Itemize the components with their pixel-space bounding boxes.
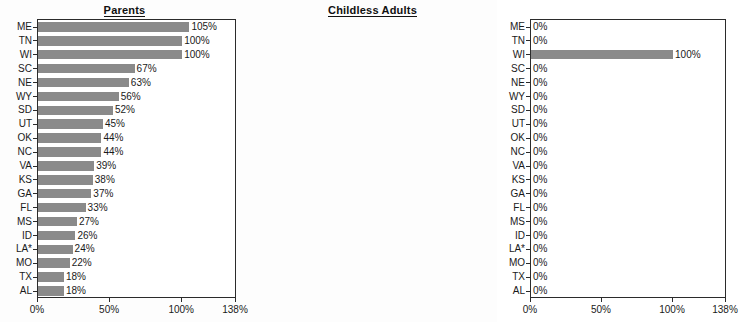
plot-frame-childless <box>530 19 726 298</box>
category-label-mo: MO <box>495 256 525 270</box>
x-tick-label: 100% <box>168 304 194 315</box>
x-tick-mark <box>235 298 236 302</box>
category-label-sd: SD <box>2 103 32 117</box>
x-tick-label: 0% <box>30 304 44 315</box>
category-label-wi: WI <box>2 48 32 62</box>
category-label-ok: OK <box>2 131 32 145</box>
category-label-sc: SC <box>2 62 32 76</box>
x-tick-label: 100% <box>659 304 685 315</box>
category-label-me: ME <box>2 20 32 34</box>
x-tick-label: 138% <box>222 304 248 315</box>
chart-title-parents: Parents <box>0 4 249 16</box>
x-tick-mark <box>37 298 38 302</box>
category-label-ut: UT <box>2 117 32 131</box>
category-label-fl: FL <box>495 201 525 215</box>
chart-panel-parents: Parents ME105%TN100%WI100%SC67%NE63%WY56… <box>0 0 249 322</box>
category-label-sc: SC <box>495 62 525 76</box>
plot-frame-parents <box>37 19 236 298</box>
x-tick-mark <box>109 298 110 302</box>
chart-title-parents-text: Parents <box>104 4 146 17</box>
category-label-ut: UT <box>495 117 525 131</box>
category-label-va: VA <box>495 159 525 173</box>
category-label-me: ME <box>495 20 525 34</box>
category-label-ne: NE <box>495 76 525 90</box>
x-tick-mark <box>181 298 182 302</box>
category-label-tn: TN <box>2 34 32 48</box>
category-label-wy: WY <box>495 90 525 104</box>
category-label-id: ID <box>495 229 525 243</box>
x-tick-label: 50% <box>99 304 119 315</box>
x-tick-label: 50% <box>591 304 611 315</box>
category-label-wy: WY <box>2 90 32 104</box>
x-tick-label: 138% <box>712 304 738 315</box>
category-label-ga: GA <box>2 187 32 201</box>
category-label-tn: TN <box>495 34 525 48</box>
category-label-ms: MS <box>2 215 32 229</box>
category-label-tx: TX <box>495 270 525 284</box>
category-label-al: AL <box>2 284 32 298</box>
x-tick-mark <box>672 298 673 302</box>
category-label-al: AL <box>495 284 525 298</box>
x-axis-childless: 0%50%100%138% <box>530 298 726 320</box>
category-label-ga: GA <box>495 187 525 201</box>
x-tick-mark <box>725 298 726 302</box>
category-label-nc: NC <box>2 145 32 159</box>
category-label-nc: NC <box>495 145 525 159</box>
category-label-fl: FL <box>2 201 32 215</box>
category-label-ok: OK <box>495 131 525 145</box>
category-label-sd: SD <box>495 103 525 117</box>
category-label-tx: TX <box>2 270 32 284</box>
category-label-ms: MS <box>495 215 525 229</box>
x-tick-mark <box>601 298 602 302</box>
chart-title-childless: Childless Adults <box>248 4 497 16</box>
category-label-ks: KS <box>2 173 32 187</box>
category-label-ks: KS <box>495 173 525 187</box>
x-tick-label: 0% <box>523 304 537 315</box>
category-label-wi: WI <box>495 48 525 62</box>
category-label-mo: MO <box>2 256 32 270</box>
chart-panel-childless: Childless Adults ME0%TN0%WI100%SC0%NE0%W… <box>248 0 497 322</box>
category-label-va: VA <box>2 159 32 173</box>
category-label-ne: NE <box>2 76 32 90</box>
category-label-id: ID <box>2 229 32 243</box>
chart-title-childless-text: Childless Adults <box>328 4 417 17</box>
category-label-la: LA* <box>2 242 32 256</box>
category-label-la: LA* <box>495 242 525 256</box>
x-axis-parents: 0%50%100%138% <box>37 298 236 320</box>
x-tick-mark <box>530 298 531 302</box>
